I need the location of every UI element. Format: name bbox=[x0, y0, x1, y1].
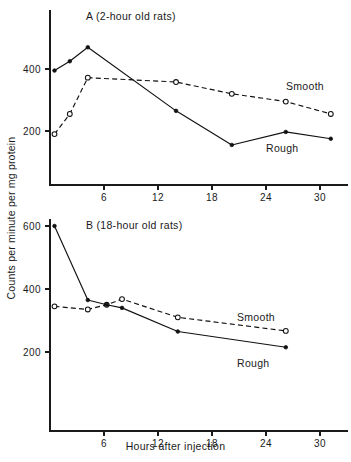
data-point-smooth-1 bbox=[67, 112, 72, 117]
data-point-rough-5 bbox=[284, 345, 288, 349]
panel-a-series-rough bbox=[53, 46, 333, 147]
figure-container: Counts per minute per mg protein 400 200… bbox=[0, 0, 351, 462]
panel-a-axes bbox=[50, 10, 348, 185]
panel-b-ytick-200-label: 200 bbox=[23, 347, 41, 358]
data-point-smooth-1 bbox=[85, 307, 90, 312]
panel-a-plot: 400 200 6 12 18 24 30 A (2-hour old rats… bbox=[18, 0, 351, 211]
chart-panel-a: 400 200 6 12 18 24 30 A (2-hour old rats… bbox=[18, 0, 351, 211]
panel-a-ytick-200-label: 200 bbox=[23, 126, 41, 137]
data-point-smooth-5 bbox=[283, 328, 288, 333]
panel-b-title: B (18-hour old rats) bbox=[86, 219, 182, 231]
data-point-rough-0 bbox=[53, 69, 57, 73]
data-point-rough-3 bbox=[174, 109, 178, 113]
chart-panel-b: 600 400 200 6 12 18 24 30 B (18-hour old… bbox=[18, 211, 351, 462]
data-point-smooth-4 bbox=[175, 315, 180, 320]
panel-b-series-rough bbox=[53, 224, 288, 349]
data-point-rough-2 bbox=[105, 303, 109, 307]
data-point-smooth-5 bbox=[283, 99, 288, 104]
data-point-smooth-4 bbox=[229, 91, 234, 96]
series-line-rough bbox=[55, 226, 286, 347]
data-point-smooth-3 bbox=[120, 297, 125, 302]
data-point-rough-1 bbox=[68, 59, 72, 63]
panel-b-plot: 600 400 200 6 12 18 24 30 B (18-hour old… bbox=[18, 211, 351, 462]
data-point-rough-0 bbox=[53, 224, 57, 228]
panel-b-axes bbox=[50, 219, 348, 431]
data-point-rough-1 bbox=[86, 298, 90, 302]
panel-a-xtick-18-label: 18 bbox=[206, 192, 218, 203]
data-point-smooth-2 bbox=[85, 75, 90, 80]
data-point-smooth-6 bbox=[328, 112, 333, 117]
data-point-rough-3 bbox=[120, 306, 124, 310]
data-point-rough-4 bbox=[230, 143, 234, 147]
panel-b-ytick-600-label: 600 bbox=[23, 221, 41, 232]
panel-b-rough-label: Rough bbox=[237, 357, 269, 369]
data-point-rough-2 bbox=[86, 46, 90, 50]
data-point-smooth-3 bbox=[174, 80, 179, 85]
data-point-rough-6 bbox=[329, 137, 333, 141]
panel-a-title: A (2-hour old rats) bbox=[86, 10, 176, 22]
y-axis-label: Counts per minute per mg protein bbox=[5, 103, 17, 333]
panel-a-xtick-12-label: 12 bbox=[152, 192, 164, 203]
x-axis-label: Hours after injection bbox=[0, 440, 351, 452]
panel-a-rough-label: Rough bbox=[266, 142, 298, 154]
panel-a-ytick-400-label: 400 bbox=[23, 64, 41, 75]
data-point-rough-4 bbox=[176, 330, 180, 334]
series-line-rough bbox=[55, 47, 331, 145]
data-point-smooth-0 bbox=[52, 132, 57, 137]
panel-b-smooth-label: Smooth bbox=[237, 311, 275, 323]
data-point-smooth-0 bbox=[52, 304, 57, 309]
panel-a-xtick-30-label: 30 bbox=[314, 192, 326, 203]
panel-a-smooth-label: Smooth bbox=[286, 80, 324, 92]
panel-a-xtick-24-label: 24 bbox=[260, 192, 272, 203]
data-point-rough-5 bbox=[284, 130, 288, 134]
panel-b-ytick-400-label: 400 bbox=[23, 284, 41, 295]
panel-a-xtick-6-label: 6 bbox=[101, 192, 107, 203]
